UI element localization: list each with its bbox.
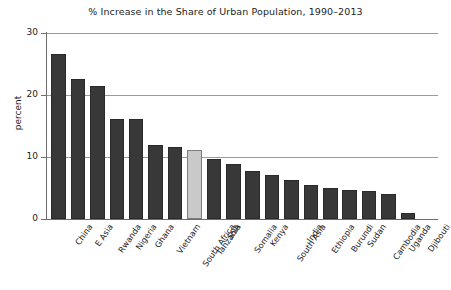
bar-rwanda[interactable] bbox=[90, 86, 105, 219]
bar-kenya[interactable] bbox=[245, 171, 260, 219]
bar-somalia[interactable] bbox=[226, 164, 241, 219]
x-axis-labels: ChinaE AsiaRwandaNigeriaGhanaVietnamSout… bbox=[47, 222, 438, 288]
bar-uganda[interactable] bbox=[381, 194, 396, 219]
bar-chart: % Increase in the Share of Urban Populat… bbox=[0, 0, 451, 290]
bar-burundi[interactable] bbox=[323, 188, 338, 219]
bar-south-africa[interactable] bbox=[168, 147, 183, 219]
x-tick-label-e-asia: E Asia bbox=[93, 222, 115, 248]
y-tick-label: 10 bbox=[0, 151, 38, 161]
x-tick-label-china: China bbox=[73, 222, 95, 247]
y-tick-mark bbox=[41, 33, 47, 34]
bar-south-asia[interactable] bbox=[265, 175, 280, 219]
y-tick-label: 0 bbox=[0, 213, 38, 223]
y-tick-mark bbox=[41, 219, 47, 220]
bar-vietnam[interactable] bbox=[148, 145, 163, 219]
bar-ssa[interactable] bbox=[207, 159, 222, 219]
bar-djibouti[interactable] bbox=[401, 213, 416, 219]
bar-nigeria[interactable] bbox=[110, 119, 125, 219]
y-tick-mark bbox=[41, 95, 47, 96]
chart-title: % Increase in the Share of Urban Populat… bbox=[0, 6, 451, 17]
bar-china[interactable] bbox=[51, 54, 66, 219]
bar-india[interactable] bbox=[284, 180, 299, 219]
bar-cambodia[interactable] bbox=[362, 191, 377, 219]
bar-e-asia[interactable] bbox=[71, 79, 86, 219]
y-tick-mark bbox=[41, 157, 47, 158]
bars-layer bbox=[47, 33, 438, 219]
bar-ghana[interactable] bbox=[129, 119, 144, 219]
bar-tanzania[interactable] bbox=[187, 150, 202, 219]
bar-sudan[interactable] bbox=[342, 190, 357, 219]
y-tick-label: 20 bbox=[0, 89, 38, 99]
x-tick-label-vietnam: Vietnam bbox=[175, 222, 203, 256]
bar-ethiopia[interactable] bbox=[304, 185, 319, 219]
y-tick-label: 30 bbox=[0, 27, 38, 37]
x-axis-line bbox=[46, 219, 438, 220]
